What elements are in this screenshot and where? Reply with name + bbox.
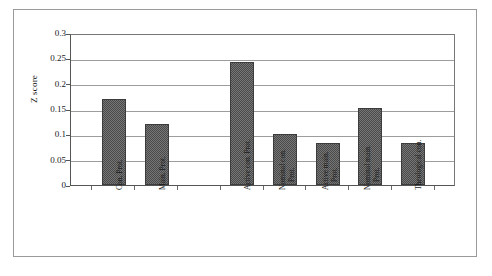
x-axis-category-labels: Con. Prot.Main. Prot.Active con. Prot.No…: [70, 190, 455, 256]
y-axis-tick-label: 0.05: [24, 156, 66, 165]
gridline: [71, 85, 454, 86]
x-axis-category-label: Con. Prot.: [116, 110, 125, 190]
x-axis-category-label: Active con. Prot.: [244, 110, 253, 190]
y-axis-tick-mark: [66, 135, 70, 136]
y-axis-tick-mark: [66, 59, 70, 60]
y-axis-tick-mark: [66, 110, 70, 111]
y-axis-tick-mark: [66, 160, 70, 161]
x-axis-category-label: Nominal con.Prot.: [279, 110, 296, 190]
plot-area: [70, 34, 455, 186]
y-axis-tick-label: 0.2: [24, 80, 66, 89]
gridline: [71, 60, 454, 61]
y-axis-tick-label: 0.1: [24, 130, 66, 139]
y-axis-tick-label: 0.15: [24, 105, 66, 114]
x-axis-category-label: Theological con.: [415, 110, 424, 190]
gridline: [71, 161, 454, 162]
y-axis-tick-mark: [66, 84, 70, 85]
y-axis-tick-mark: [66, 186, 70, 187]
y-axis-tick-label: 0.3: [24, 29, 66, 38]
y-axis-tick-mark: [66, 34, 70, 35]
y-axis-tick-label: 0: [24, 181, 66, 190]
y-axis-tick-label: 0.25: [24, 54, 66, 63]
x-axis-category-label: Main. Prot.: [159, 110, 168, 190]
gridline: [71, 111, 454, 112]
gridline: [71, 136, 454, 137]
x-axis-category-label: Active main.Prot.: [322, 110, 339, 190]
y-axis-tick-labels: 0.30.250.20.150.10.050: [20, 34, 66, 186]
chart-figure: Z score 0.30.250.20.150.10.050 Con. Prot…: [0, 0, 492, 276]
x-axis-category-label: Nominal main.Prot.: [364, 110, 381, 190]
